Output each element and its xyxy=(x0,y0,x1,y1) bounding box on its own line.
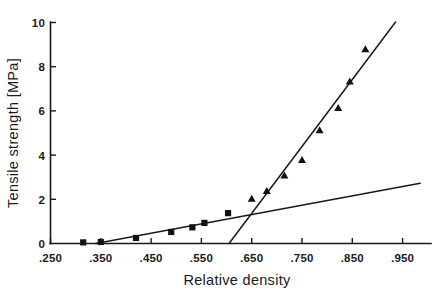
data-point-square xyxy=(201,220,207,226)
x-tick-label-450: .450 xyxy=(140,252,163,264)
y-tick-label-8: 8 xyxy=(38,61,45,73)
y-tick-label-2: 2 xyxy=(38,194,45,206)
y-tick-label-6: 6 xyxy=(38,105,45,117)
data-point-square xyxy=(225,210,231,216)
x-tick-label-250: .250 xyxy=(39,252,62,264)
x-tick-label-750: .750 xyxy=(290,252,313,264)
steep-fit-line xyxy=(229,22,395,244)
x-tick-label-950: .950 xyxy=(391,252,414,264)
y-tick-label-10: 10 xyxy=(32,17,45,29)
x-tick-label-650: .650 xyxy=(240,252,263,264)
x-tick-label-550: .550 xyxy=(190,252,213,264)
x-axis-title: Relative density xyxy=(183,272,291,288)
axes-group xyxy=(50,22,431,244)
data-point-triangle xyxy=(361,45,369,52)
y-axis-title: Tensile strength [MPa] xyxy=(5,58,21,208)
data-point-square xyxy=(168,229,174,235)
data-markers-group xyxy=(80,45,369,245)
series-high-density-series xyxy=(248,45,370,202)
x-tick-label-350: .350 xyxy=(89,252,112,264)
data-point-triangle xyxy=(298,156,306,163)
y-ticks-group xyxy=(51,23,57,200)
shallow-fit-line xyxy=(96,183,420,243)
data-point-square xyxy=(133,235,139,241)
chart-figure: 10 8 6 4 2 0 .250 .350 .450 .550 .650 .7… xyxy=(0,0,443,293)
x-tick-label-850: .850 xyxy=(341,252,364,264)
data-point-square xyxy=(80,239,86,245)
data-point-square xyxy=(189,224,195,230)
data-point-square xyxy=(98,239,104,245)
y-tick-label-0: 0 xyxy=(38,238,45,250)
series-low-density-series xyxy=(80,210,231,245)
y-tick-label-4: 4 xyxy=(38,150,45,162)
data-point-triangle xyxy=(334,104,342,111)
y-tick-labels: 10 8 6 4 2 0 xyxy=(32,17,46,250)
fit-lines-group xyxy=(96,22,420,244)
scatter-plot: 10 8 6 4 2 0 .250 .350 .450 .550 .650 .7… xyxy=(0,0,443,293)
x-tick-labels: .250 .350 .450 .550 .650 .750 .850 .950 xyxy=(39,252,414,264)
data-point-triangle xyxy=(248,195,256,202)
